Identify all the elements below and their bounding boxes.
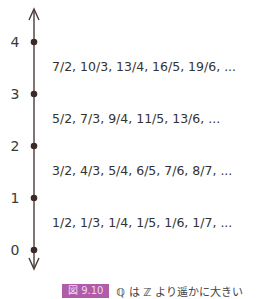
figure-caption: 図 9.10 ℚ は ℤ より遥かに大きい [62, 283, 243, 298]
tick-label-4: 4 [8, 34, 22, 50]
point-3 [31, 91, 38, 98]
point-1 [31, 195, 38, 202]
fractions-row-2-3: 5/2, 7/3, 9/4, 11/5, 13/6, ... [52, 111, 220, 127]
caption-text: ℚ は ℤ より遥かに大きい [116, 283, 242, 299]
tick-label-2: 2 [8, 138, 22, 154]
tick-label-0: 0 [8, 242, 22, 258]
point-2 [31, 143, 38, 150]
fractions-row-0-1: 1/2, 1/3, 1/4, 1/5, 1/6, 1/7, ... [52, 215, 232, 231]
number-line [0, 0, 279, 299]
tick-label-1: 1 [8, 190, 22, 206]
fractions-row-1-2: 3/2, 4/3, 5/4, 6/5, 7/6, 8/7, ... [52, 163, 232, 179]
figure-number-badge: 図 9.10 [62, 284, 109, 298]
point-4 [31, 39, 38, 46]
fractions-row-3-4: 7/2, 10/3, 13/4, 16/5, 19/6, ... [52, 59, 236, 75]
point-0 [31, 247, 38, 254]
tick-label-3: 3 [8, 86, 22, 102]
